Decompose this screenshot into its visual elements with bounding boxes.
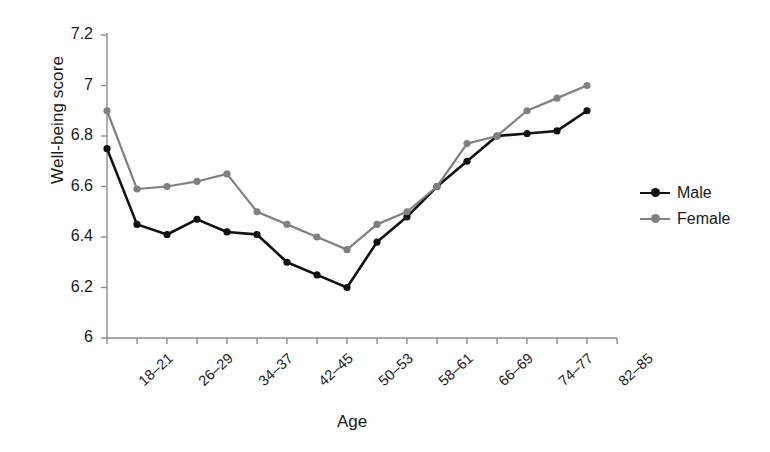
data-point <box>343 246 350 253</box>
legend-marker-icon <box>640 186 670 200</box>
data-point <box>103 145 110 152</box>
legend-marker-icon <box>640 212 670 226</box>
data-point <box>523 130 530 137</box>
data-point <box>133 185 140 192</box>
data-point <box>403 208 410 215</box>
data-point <box>253 231 260 238</box>
series-male <box>103 107 590 291</box>
data-point <box>553 95 560 102</box>
data-point <box>433 183 440 190</box>
data-point <box>133 221 140 228</box>
data-point <box>343 284 350 291</box>
x-axis-ticks <box>107 338 617 344</box>
data-point <box>373 238 380 245</box>
data-series-layer <box>103 82 590 291</box>
y-axis-title-wrap: Well-being score <box>48 10 68 230</box>
data-point <box>463 158 470 165</box>
data-point <box>253 208 260 215</box>
x-axis-title: Age <box>337 412 367 432</box>
data-point <box>223 170 230 177</box>
data-point <box>283 221 290 228</box>
legend-item-female[interactable]: Female <box>640 206 730 232</box>
series-line <box>107 111 587 288</box>
data-point <box>283 259 290 266</box>
y-axis-tick-label: 6.2 <box>49 278 93 296</box>
data-point <box>373 221 380 228</box>
y-axis-tick-label: 7 <box>49 76 93 94</box>
data-point <box>163 183 170 190</box>
series-female <box>103 82 590 253</box>
legend-label: Male <box>677 184 712 202</box>
data-point <box>163 231 170 238</box>
data-point <box>523 107 530 114</box>
chart-legend: MaleFemale <box>640 180 730 232</box>
data-point <box>313 271 320 278</box>
y-axis-tick-label: 6.8 <box>49 126 93 144</box>
data-point <box>463 140 470 147</box>
chart-figure: Well-being score Age 66.26.46.66.877.2 1… <box>0 0 770 452</box>
y-axis-tick-label: 7.2 <box>49 25 93 43</box>
data-point <box>193 216 200 223</box>
y-axis-tick-label: 6.4 <box>49 227 93 245</box>
data-point <box>583 107 590 114</box>
y-axis-tick-label: 6 <box>49 328 93 346</box>
data-point <box>313 233 320 240</box>
data-point <box>553 127 560 134</box>
data-point <box>223 228 230 235</box>
y-axis-ticks <box>101 35 107 338</box>
data-point <box>583 82 590 89</box>
y-axis-tick-label: 6.6 <box>49 177 93 195</box>
data-point <box>103 107 110 114</box>
legend-label: Female <box>677 210 730 228</box>
data-point <box>493 132 500 139</box>
series-line <box>107 86 587 250</box>
axis-lines <box>107 33 617 338</box>
data-point <box>193 178 200 185</box>
legend-item-male[interactable]: Male <box>640 180 730 206</box>
